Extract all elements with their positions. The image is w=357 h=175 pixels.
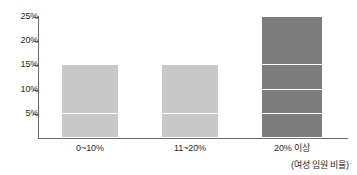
bar-segment bbox=[62, 114, 118, 138]
bar-chart: 25% 20% 15% 10% 5% bbox=[0, 0, 357, 175]
y-axis-line bbox=[38, 16, 39, 139]
bar-segment bbox=[262, 65, 322, 89]
bar-segment bbox=[262, 90, 322, 114]
y-tick-label: 15% bbox=[8, 60, 38, 69]
bar-0-10 bbox=[62, 65, 118, 138]
x-axis-label-20-plus: 20% 이상 bbox=[262, 143, 322, 154]
bar-segment bbox=[62, 65, 118, 89]
y-tick-label: 25% bbox=[8, 12, 38, 21]
bar-segment bbox=[62, 90, 118, 114]
bar-11-20 bbox=[162, 65, 218, 138]
bar-20-plus bbox=[262, 17, 322, 138]
x-axis-label-11-20: 11~20% bbox=[160, 143, 220, 154]
bar-segment bbox=[262, 41, 322, 65]
y-tick-label: 5% bbox=[8, 109, 38, 118]
y-tick-label: 20% bbox=[8, 36, 38, 45]
x-axis-line bbox=[38, 138, 348, 139]
x-axis-label-0-10: 0~10% bbox=[60, 143, 120, 154]
chart-caption: (여성 임원 비율) bbox=[291, 158, 349, 171]
y-tick-label: 10% bbox=[8, 85, 38, 94]
bar-segment bbox=[162, 114, 218, 138]
chart-page: 25% 20% 15% 10% 5% bbox=[0, 0, 357, 175]
bar-segment bbox=[262, 17, 322, 41]
bar-segment bbox=[162, 90, 218, 114]
bar-segment bbox=[162, 65, 218, 89]
bar-segment bbox=[262, 114, 322, 138]
